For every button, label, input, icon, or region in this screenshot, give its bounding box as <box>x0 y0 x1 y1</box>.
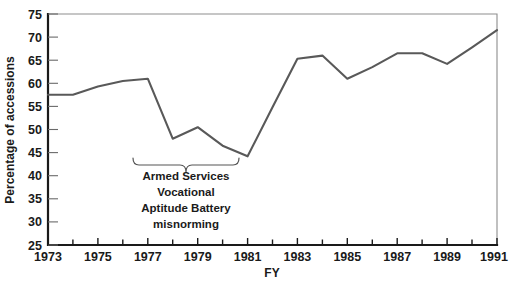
x-tick-label: 1977 <box>134 250 162 264</box>
y-tick-label: 30 <box>28 215 42 229</box>
x-tick-label: 1985 <box>333 250 361 264</box>
y-tick-label: 60 <box>28 77 42 91</box>
x-tick-label: 1979 <box>184 250 212 264</box>
y-axis-title: Percentage of accessions <box>3 56 17 204</box>
y-axis-tick-labels: 75 70 65 60 55 50 45 40 35 30 25 <box>28 8 42 253</box>
x-axis-tick-labels: 1973 1975 1977 1979 1981 1983 1985 1987 … <box>34 250 508 264</box>
chart-container: 75 70 65 60 55 50 45 40 35 30 25 <box>0 0 517 284</box>
annotation-line: misnorming <box>153 218 219 230</box>
x-tick-label: 1989 <box>433 250 461 264</box>
plot-frame <box>48 14 497 245</box>
line-chart: 75 70 65 60 55 50 45 40 35 30 25 <box>0 0 517 284</box>
y-tick-label: 65 <box>28 54 42 68</box>
x-tick-label: 1987 <box>383 250 411 264</box>
x-tick-label: 1991 <box>480 250 508 264</box>
y-tick-label: 35 <box>28 192 42 206</box>
y-tick-label: 40 <box>28 169 42 183</box>
x-tick-label: 1981 <box>234 250 262 264</box>
axis-lines <box>48 14 497 245</box>
y-axis-ticks <box>48 14 58 245</box>
annotation-line: Aptitude Battery <box>141 202 231 214</box>
y-tick-label: 55 <box>28 100 42 114</box>
y-tick-label: 45 <box>28 146 42 160</box>
data-series-line <box>48 30 497 156</box>
annotation-line: Vocational <box>157 186 214 198</box>
x-tick-label: 1973 <box>34 250 62 264</box>
asvab-annotation-text: Armed Services Vocational Aptitude Batte… <box>141 170 231 230</box>
y-tick-label: 75 <box>28 8 42 22</box>
x-axis-title: FY <box>264 266 279 280</box>
annotation-line: Armed Services <box>143 170 230 182</box>
y-tick-label: 50 <box>28 123 42 137</box>
y-tick-label: 70 <box>28 31 42 45</box>
x-tick-label: 1975 <box>84 250 112 264</box>
x-tick-label: 1983 <box>283 250 311 264</box>
